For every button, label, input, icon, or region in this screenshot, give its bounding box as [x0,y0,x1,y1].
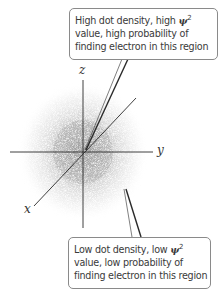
z-axis-label: z [79,63,85,77]
callout-line-3: finding electron in this region [75,40,212,53]
callout-line-2: value, low probability of [74,256,205,269]
superscript-2: 2 [187,14,191,22]
psi-symbol: ψ [178,15,187,26]
low-density-callout: Low dot density, low ψ2 value, low proba… [68,237,211,289]
callout-line-1: High dot density, high ψ2 [75,12,212,27]
high-density-callout: High dot density, high ψ2 value, high pr… [69,8,218,60]
y-axis-label: y [157,143,164,157]
callout-line-2: value, high probability of [75,27,212,40]
callout-line-3: finding electron in this region [74,269,205,282]
callout-line-1: Low dot density, low ψ2 [74,241,205,256]
x-axis-label: x [24,202,31,216]
superscript-2: 2 [179,243,183,251]
psi-symbol: ψ [170,244,179,255]
